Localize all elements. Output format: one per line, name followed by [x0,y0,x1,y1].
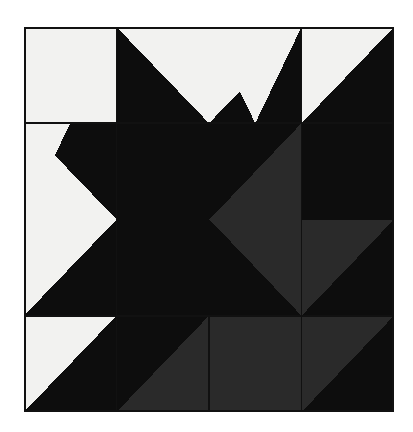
quilt-block-svg [24,27,394,412]
quilt-block [24,27,394,412]
artwork-canvas [0,0,413,432]
patch-r2c4-dark-upper [302,123,395,219]
patch-r1c1-light-square [24,27,117,123]
